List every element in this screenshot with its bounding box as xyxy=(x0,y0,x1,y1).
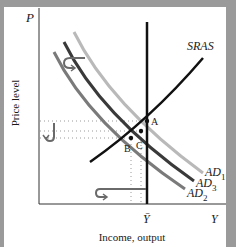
x-axis-symbol: Y xyxy=(211,212,219,226)
output-return-arrow-icon xyxy=(96,189,146,200)
point-c-label: C xyxy=(136,140,143,151)
ad1-curve xyxy=(74,32,203,173)
ad3-curve xyxy=(64,42,194,181)
point-b-marker xyxy=(129,136,133,140)
sras-label: SRAS xyxy=(187,39,214,53)
guide-lines xyxy=(40,121,146,203)
point-a-marker xyxy=(145,119,149,123)
diagram-stage: P Price level Y Ȳ Income, output SRAS A … xyxy=(0,0,236,247)
point-a-label: A xyxy=(151,116,159,127)
y-axis-symbol: P xyxy=(25,10,34,25)
point-c-marker xyxy=(139,129,143,133)
ad-as-diagram: P Price level Y Ȳ Income, output SRAS A … xyxy=(0,0,236,247)
x-marker-label: Ȳ xyxy=(143,212,151,226)
point-b-label: B xyxy=(124,143,131,154)
x-axis-title: Income, output xyxy=(99,231,166,243)
y-axis-title: Price level xyxy=(9,80,21,127)
